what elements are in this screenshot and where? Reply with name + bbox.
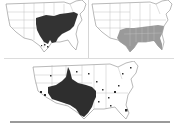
- panel-divider-vertical: [88, 0, 89, 58]
- map-panel-b: [90, 0, 175, 58]
- panel-divider-horizontal: [4, 58, 174, 59]
- map-panel-a: [4, 0, 88, 58]
- us-map-c: [30, 61, 145, 120]
- us-map-a: [4, 0, 88, 58]
- map-panel-c: [30, 61, 145, 120]
- figure-bottom-rule: [10, 121, 170, 123]
- us-map-b: [90, 0, 175, 58]
- range-shading: [117, 25, 164, 52]
